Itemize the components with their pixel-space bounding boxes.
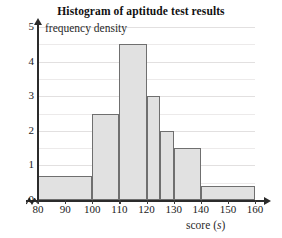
- histogram-chart: Histogram of aptitude test results 01234…: [0, 0, 282, 238]
- x-axis-line: [26, 200, 265, 202]
- x-axis-tick-label: 100: [77, 203, 107, 215]
- x-axis-tickmark: [38, 200, 39, 204]
- x-axis-label: score (s): [186, 219, 225, 231]
- histogram-bar: [201, 186, 255, 200]
- histogram-bar: [119, 44, 146, 200]
- y-axis-line: [37, 24, 39, 201]
- x-axis-tickmark: [92, 200, 93, 204]
- x-axis-tickmark: [255, 200, 256, 204]
- x-axis-tick-label: 150: [213, 203, 243, 215]
- x-axis-tickmark: [147, 200, 148, 204]
- y-axis-tick-label: 1: [14, 158, 34, 170]
- y-axis-arrow-icon: [34, 18, 42, 25]
- x-axis-tick-label: 130: [159, 203, 189, 215]
- x-axis-tickmark: [174, 200, 175, 204]
- chart-title: Histogram of aptitude test results: [0, 5, 282, 17]
- x-axis-tick-label: 80: [23, 203, 53, 215]
- x-axis-tickmark: [65, 200, 66, 204]
- x-axis-tickmark: [119, 200, 120, 204]
- plot-area: [38, 27, 255, 200]
- histogram-bar: [38, 176, 92, 200]
- x-axis-ticks: 8090100110120130140150160: [0, 203, 282, 219]
- x-axis-tick-label: 120: [132, 203, 162, 215]
- x-axis-tickmark: [201, 200, 202, 204]
- y-axis-tick-label: 5: [14, 20, 34, 32]
- x-axis-tickmark: [228, 200, 229, 204]
- x-axis-label-close: ): [221, 219, 225, 231]
- y-axis-label: frequency density: [45, 22, 127, 34]
- x-axis-tick-label: 160: [240, 203, 270, 215]
- histogram-bar: [147, 96, 161, 200]
- histogram-bar: [174, 148, 201, 200]
- y-axis-tick-label: 4: [14, 55, 34, 67]
- y-axis-tick-label: 3: [14, 89, 34, 101]
- y-axis-tick-label: 2: [14, 124, 34, 136]
- gridline: [38, 62, 255, 63]
- x-axis-tick-label: 110: [104, 203, 134, 215]
- gridline: [38, 79, 255, 80]
- gridline: [38, 44, 255, 45]
- x-axis-tick-label: 90: [50, 203, 80, 215]
- x-axis-tick-label: 140: [186, 203, 216, 215]
- histogram-bar: [160, 131, 174, 200]
- histogram-bar: [92, 114, 119, 201]
- x-axis-label-text: score (: [186, 219, 217, 231]
